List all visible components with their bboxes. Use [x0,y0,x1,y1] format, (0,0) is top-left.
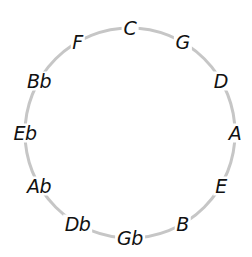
note-label-a: A [227,124,244,143]
note-label-c: C [122,19,139,38]
note-label-gb: Gb [115,229,145,248]
note-label-b: B [174,214,191,233]
note-label-e: E [213,176,229,195]
note-label-bb: Bb [25,71,53,90]
note-label-d: D [212,71,230,90]
note-label-g: G [173,33,191,52]
note-label-eb: Eb [11,124,38,143]
circle-of-fifths-diagram: C G D A E B Gb Db Ab Eb Bb F [0,0,252,257]
note-label-db: Db [63,214,93,233]
note-label-f: F [70,33,84,52]
note-label-ab: Ab [25,176,53,195]
